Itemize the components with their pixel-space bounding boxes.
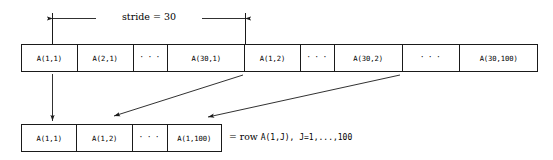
linear-memory-layout: A(1,1) A(2,1) · · · A(30,1) A(1,2) · · ·… bbox=[21, 44, 538, 72]
extracted-row-vector: A(1,1) A(1,2) · · · A(1,100) bbox=[21, 124, 222, 152]
row-vector-cell: A(1,1) bbox=[22, 125, 77, 151]
memory-cell: A(30,1) bbox=[168, 45, 245, 71]
row-vector-cell: A(1,100) bbox=[168, 125, 221, 151]
memory-cell: A(1,2) bbox=[245, 45, 301, 71]
memory-cell: A(2,1) bbox=[78, 45, 134, 71]
stride-diagram: stride = 30 A(1,1) A(2,1) · · · A(30,1) … bbox=[0, 0, 553, 160]
memory-cell-ellipsis: · · · bbox=[134, 45, 169, 71]
row-vector-cell: A(1,2) bbox=[77, 125, 132, 151]
memory-cell-ellipsis: · · · bbox=[403, 45, 461, 71]
memory-cell: A(30,2) bbox=[335, 45, 403, 71]
row-vector-cell-ellipsis: · · · bbox=[133, 125, 168, 151]
memory-cell: A(1,1) bbox=[22, 45, 78, 71]
memory-cell: A(30,100) bbox=[460, 45, 537, 71]
row-equation: = row A(1,J), J=1,...,100 bbox=[229, 131, 352, 142]
row-equation-prefix: = row bbox=[229, 131, 261, 142]
row-equation-expression: A(1,J), J=1,...,100 bbox=[261, 133, 353, 142]
mapping-arrows bbox=[53, 74, 401, 121]
stride-label: stride = 30 bbox=[97, 11, 201, 22]
memory-cell-ellipsis: · · · bbox=[301, 45, 335, 71]
